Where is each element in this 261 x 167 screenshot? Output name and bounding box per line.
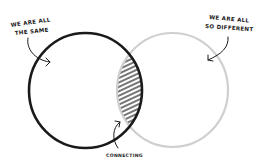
venn-diagram: WE ARE ALL THE SAME WE ARE ALL SO DIFFER… [0,0,261,167]
left-arrow-icon [28,38,50,66]
left-label-line2: THE SAME [14,26,48,36]
right-label-line2: SO DIFFERENT [205,23,254,32]
left-label: WE ARE ALL THE SAME [10,16,51,36]
connecting-arrow-icon [114,121,120,148]
right-label-line1: WE ARE ALL [209,14,250,23]
intersection-label: CONNECTING [106,153,143,158]
right-label: WE ARE ALL SO DIFFERENT [205,14,254,32]
